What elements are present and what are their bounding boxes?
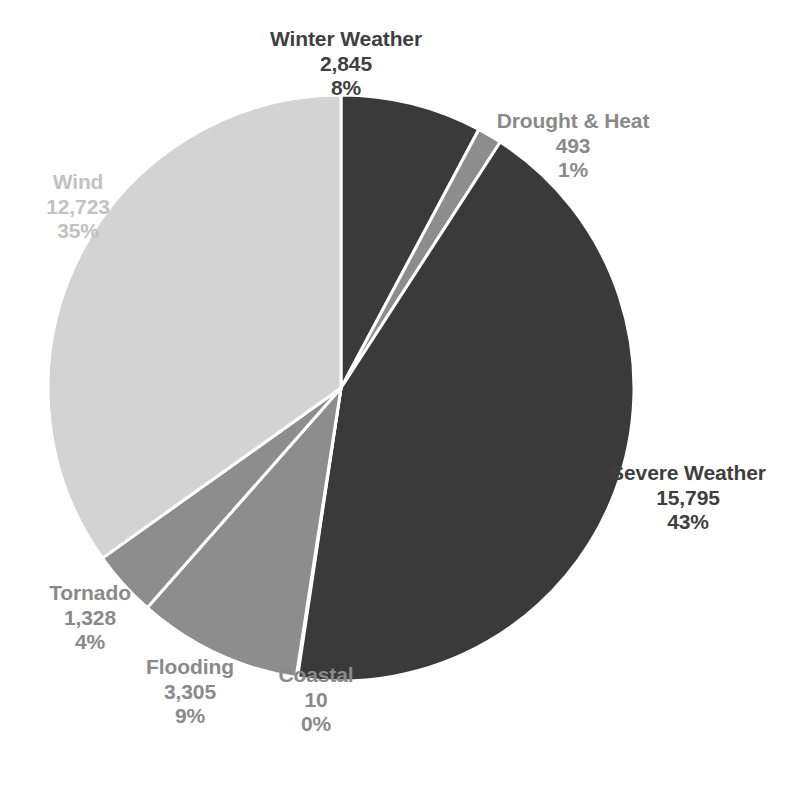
pie-label-wind: Wind 12,723 35% [10, 170, 146, 244]
pie-label-wind-name: Wind [10, 170, 146, 195]
pie-label-coastal-value: 10 [248, 688, 384, 713]
pie-label-winter-weather: Winter Weather 2,845 8% [246, 27, 446, 101]
pie-label-coastal-name: Coastal [248, 663, 384, 688]
pie-label-tornado-value: 1,328 [20, 606, 160, 631]
pie-label-severe-weather-name: Severe Weather [600, 461, 776, 486]
pie-label-flooding-value: 3,305 [118, 680, 262, 705]
pie-label-tornado-percent: 4% [20, 630, 160, 655]
pie-label-winter-weather-name: Winter Weather [246, 27, 446, 52]
pie-label-tornado-name: Tornado [20, 581, 160, 606]
pie-label-severe-weather-percent: 43% [600, 510, 776, 535]
pie-label-coastal: Coastal 10 0% [248, 663, 384, 737]
pie-label-winter-weather-value: 2,845 [246, 52, 446, 77]
pie-label-severe-weather-value: 15,795 [600, 486, 776, 511]
pie-label-wind-percent: 35% [10, 219, 146, 244]
pie-label-drought-and-heat-name: Drought & Heat [472, 109, 674, 134]
pie-label-tornado: Tornado 1,328 4% [20, 581, 160, 655]
pie-chart: Winter Weather 2,845 8% Drought & Heat 4… [0, 0, 788, 790]
pie-label-flooding-name: Flooding [118, 655, 262, 680]
pie-label-drought-and-heat: Drought & Heat 493 1% [472, 109, 674, 183]
pie-label-severe-weather: Severe Weather 15,795 43% [600, 461, 776, 535]
pie-label-drought-and-heat-value: 493 [472, 134, 674, 159]
pie-label-wind-value: 12,723 [10, 195, 146, 220]
pie-label-drought-and-heat-percent: 1% [472, 158, 674, 183]
pie-label-flooding: Flooding 3,305 9% [118, 655, 262, 729]
pie-label-winter-weather-percent: 8% [246, 76, 446, 101]
pie-label-coastal-percent: 0% [248, 712, 384, 737]
pie-label-flooding-percent: 9% [118, 704, 262, 729]
